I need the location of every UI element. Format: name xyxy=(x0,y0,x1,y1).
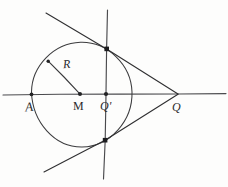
label-point-q-prime: Q' xyxy=(100,100,111,112)
radius-endpoint-dot xyxy=(47,60,50,63)
label-radius: R xyxy=(63,58,71,70)
point-q-prime-dot xyxy=(104,92,108,96)
point-a-dot xyxy=(30,92,34,96)
point-m-dot xyxy=(78,92,82,96)
label-center-m: M xyxy=(73,100,84,112)
label-point-q: Q xyxy=(172,101,181,113)
figure-canvas xyxy=(0,0,228,187)
tangent-point-upper-dot xyxy=(104,47,109,52)
geometry-figure: Circle with center M, external point Q, … xyxy=(0,0,228,187)
horizontal-axis-line xyxy=(3,94,226,95)
tangent-point-lower-dot xyxy=(103,138,108,143)
label-point-a: A xyxy=(24,100,33,114)
